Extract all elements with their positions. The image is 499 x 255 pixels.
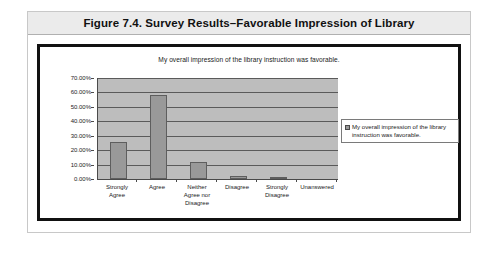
legend-label: My overall impression of the library ins… (352, 123, 455, 139)
y-axis-tick (91, 165, 94, 166)
x-axis-label-line: Unanswered (297, 183, 337, 191)
y-axis-tick-label: 70.00% (71, 75, 91, 81)
x-axis-label-line: Strongly (97, 183, 137, 191)
x-axis-label-line: Disagree (257, 191, 297, 199)
x-axis-tick-label: StronglyAgree (97, 183, 137, 207)
bar (190, 162, 207, 179)
x-axis-tick-label: StronglyDisagree (257, 183, 297, 207)
x-axis-label-line: Agree nor (177, 191, 217, 199)
x-axis-tick-label: Unanswered (297, 183, 337, 207)
x-axis-label-line: Neither (177, 183, 217, 191)
x-axis-tick-label: Agree (137, 183, 177, 207)
bar-slot (258, 78, 298, 179)
y-axis-tick (91, 150, 94, 151)
y-axis-tick (91, 107, 94, 108)
x-axis-labels: StronglyAgreeAgreeNeitherAgree norDisagr… (97, 183, 337, 207)
figure-page: Figure 7.4. Survey Results–Favorable Imp… (0, 0, 499, 255)
y-axis-labels: 0.00%10.00%20.00%30.00%40.00%50.00%60.00… (48, 78, 93, 179)
plot-area (97, 78, 338, 180)
x-axis-label-line: Strongly (257, 183, 297, 191)
bar-series (98, 78, 338, 179)
y-axis-tick-label: 20.00% (71, 147, 91, 153)
bar-slot (138, 78, 178, 179)
y-axis-tick-label: 0.00% (74, 176, 91, 182)
square-marker-icon (345, 125, 350, 130)
x-axis-label-line: Agree (137, 183, 177, 191)
figure-caption-band: Figure 7.4. Survey Results–Favorable Imp… (28, 12, 470, 35)
y-axis-tick-label: 30.00% (71, 133, 91, 139)
y-axis-tick-label: 50.00% (71, 104, 91, 110)
bar-slot (178, 78, 218, 179)
figure-caption: Figure 7.4. Survey Results–Favorable Imp… (83, 17, 414, 29)
bar-slot (218, 78, 258, 179)
y-axis-tick (91, 121, 94, 122)
bar (110, 142, 127, 180)
y-axis-tick-label: 10.00% (71, 162, 91, 168)
chart-legend: My overall impression of the library ins… (341, 119, 459, 143)
x-axis-tick-label: Disagree (217, 183, 257, 207)
y-axis-tick (91, 179, 94, 180)
bar (150, 95, 167, 179)
y-axis-tick (91, 136, 94, 137)
x-axis-label-line: Disagree (177, 199, 217, 207)
y-axis-tick-label: 60.00% (71, 89, 91, 95)
y-axis-tick (91, 92, 94, 93)
bar-slot (98, 78, 138, 179)
y-axis-tick (91, 78, 94, 79)
bar-slot (298, 78, 338, 179)
chart-title: My overall impression of the library ins… (40, 56, 458, 63)
chart-frame: My overall impression of the library ins… (37, 44, 461, 221)
x-axis-tick-label: NeitherAgree norDisagree (177, 183, 217, 207)
x-axis-label-line: Agree (97, 191, 137, 199)
x-axis-label-line: Disagree (217, 183, 257, 191)
y-axis-tick-label: 40.00% (71, 118, 91, 124)
